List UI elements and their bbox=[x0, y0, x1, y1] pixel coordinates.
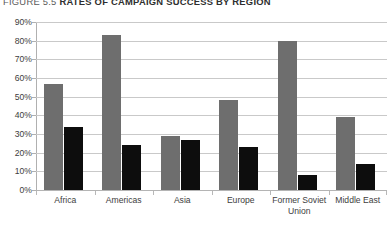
y-axis-tick-40 bbox=[32, 115, 36, 116]
y-axis-tick-20 bbox=[32, 153, 36, 154]
y-axis-label-0: 0% bbox=[2, 185, 32, 195]
gridline-90 bbox=[36, 22, 387, 23]
x-axis-label-asia: Asia bbox=[153, 195, 212, 206]
gridline-30 bbox=[36, 134, 387, 135]
x-axis-label-americas: Americas bbox=[95, 195, 154, 206]
y-axis-tick-50 bbox=[32, 97, 36, 98]
y-axis-label-30: 30% bbox=[2, 129, 32, 139]
y-axis-label-20: 20% bbox=[2, 148, 32, 158]
y-axis-label-80: 80% bbox=[2, 36, 32, 46]
gridline-50 bbox=[36, 97, 387, 98]
bar-chart-plot-area: 0%10%20%30%40%50%60%70%80%90%AfricaAmeri… bbox=[0, 0, 387, 232]
x-axis-label-africa: Africa bbox=[36, 195, 95, 206]
y-axis-tick-60 bbox=[32, 78, 36, 79]
bar-europe-series-1 bbox=[219, 100, 238, 190]
bar-middle-east-series-2 bbox=[356, 164, 375, 190]
y-axis-label-60: 60% bbox=[2, 73, 32, 83]
y-axis-label-10: 10% bbox=[2, 166, 32, 176]
x-axis-label-middle-east: Middle East bbox=[329, 195, 387, 206]
bar-former-soviet-union-series-1 bbox=[278, 41, 297, 190]
bar-middle-east-series-1 bbox=[336, 117, 355, 190]
bar-americas-series-1 bbox=[102, 35, 121, 190]
y-axis-label-70: 70% bbox=[2, 54, 32, 64]
bar-asia-series-2 bbox=[181, 140, 200, 190]
gridline-20 bbox=[36, 153, 387, 154]
y-axis-tick-80 bbox=[32, 41, 36, 42]
y-axis-label-90: 90% bbox=[2, 17, 32, 27]
y-axis-tick-90 bbox=[32, 22, 36, 23]
bar-americas-series-2 bbox=[122, 145, 141, 190]
gridline-70 bbox=[36, 59, 387, 60]
y-axis-label-50: 50% bbox=[2, 92, 32, 102]
y-axis-tick-10 bbox=[32, 171, 36, 172]
y-axis-line bbox=[36, 22, 37, 191]
bar-africa-series-2 bbox=[64, 127, 83, 190]
bar-former-soviet-union-series-2 bbox=[298, 175, 317, 190]
gridline-80 bbox=[36, 41, 387, 42]
y-axis-tick-70 bbox=[32, 59, 36, 60]
bar-europe-series-2 bbox=[239, 147, 258, 190]
gridline-60 bbox=[36, 78, 387, 79]
bar-asia-series-1 bbox=[161, 136, 180, 190]
y-axis-label-40: 40% bbox=[2, 110, 32, 120]
x-axis-label-former-soviet-union: Former Soviet Union bbox=[270, 195, 329, 216]
y-axis-tick-30 bbox=[32, 134, 36, 135]
bar-africa-series-1 bbox=[44, 84, 63, 190]
x-axis-label-europe: Europe bbox=[212, 195, 271, 206]
gridline-40 bbox=[36, 115, 387, 116]
gridline-10 bbox=[36, 171, 387, 172]
figure-container: FIGURE 5.5 RATES OF CAMPAIGN SUCCESS BY … bbox=[0, 0, 387, 232]
